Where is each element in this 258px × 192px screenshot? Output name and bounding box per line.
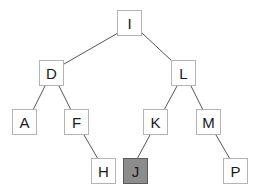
- tree-node-L: L: [171, 60, 196, 86]
- edge-F-H: [84, 135, 98, 159]
- edge-D-F: [59, 86, 71, 110]
- tree-node-A: A: [12, 109, 37, 135]
- edge-L-K: [164, 86, 177, 110]
- tree-node-I: I: [117, 10, 142, 36]
- tree-node-M: M: [196, 109, 221, 135]
- edge-K-J: [137, 135, 150, 159]
- tree-node-H: H: [91, 158, 116, 184]
- tree-node-F: F: [64, 109, 89, 135]
- edge-M-P: [216, 135, 230, 159]
- edge-I-D: [64, 33, 118, 64]
- tree-node-J-highlighted: J: [123, 158, 148, 184]
- edge-L-M: [191, 86, 203, 110]
- tree-node-K: K: [143, 109, 168, 135]
- binary-tree-diagram: I D L A F K M H J P: [0, 0, 258, 192]
- tree-node-P: P: [223, 158, 248, 184]
- edge-D-A: [33, 86, 45, 110]
- edge-I-L: [142, 33, 173, 62]
- tree-node-D: D: [39, 60, 64, 86]
